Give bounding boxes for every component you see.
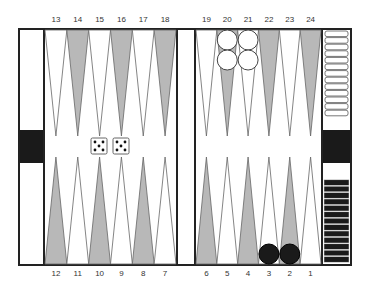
borne-off-black <box>324 237 349 243</box>
borne-off-white <box>325 97 348 103</box>
borne-off-white <box>325 64 348 70</box>
left-board <box>44 29 177 265</box>
borne-off-black <box>324 244 349 250</box>
cube-slot[interactable] <box>20 130 43 163</box>
borne-off-black <box>324 218 349 224</box>
borne-off-black <box>324 225 349 231</box>
die-pip <box>94 141 97 144</box>
borne-off-white <box>325 110 348 116</box>
borne-off-black <box>324 205 349 211</box>
borne-off-black <box>324 231 349 237</box>
bar[interactable] <box>177 29 195 265</box>
right-board <box>195 29 322 265</box>
die-pip <box>116 141 119 144</box>
black-checker[interactable] <box>259 244 279 264</box>
borne-off-white <box>325 104 348 110</box>
borne-off-white <box>325 51 348 57</box>
borne-off-black <box>324 186 349 192</box>
borne-off-black <box>324 180 349 186</box>
borne-off-white <box>325 57 348 63</box>
white-checker[interactable] <box>238 50 258 70</box>
die-pip <box>102 141 105 144</box>
die-pip <box>94 149 97 152</box>
borne-off-black <box>324 193 349 199</box>
die-pip <box>124 141 127 144</box>
black-checker[interactable] <box>280 244 300 264</box>
borne-off-black <box>324 212 349 218</box>
borne-off-white <box>325 44 348 50</box>
die-pip <box>124 149 127 152</box>
borne-off-white <box>325 71 348 77</box>
borne-off-white <box>325 77 348 83</box>
white-checker[interactable] <box>238 30 258 50</box>
borne-off-white <box>325 38 348 44</box>
white-checker[interactable] <box>217 30 237 50</box>
die-pip <box>116 149 119 152</box>
cube-slot-right[interactable] <box>323 130 350 163</box>
die-pip <box>120 145 123 148</box>
borne-off-black <box>324 250 349 256</box>
borne-off-black <box>324 199 349 205</box>
borne-off-white <box>325 31 348 37</box>
backgammon-board <box>0 0 366 293</box>
borne-off-white <box>325 84 348 90</box>
borne-off-black <box>324 257 349 263</box>
white-checker[interactable] <box>217 50 237 70</box>
die-pip <box>98 145 101 148</box>
die-pip <box>102 149 105 152</box>
borne-off-white <box>325 90 348 96</box>
